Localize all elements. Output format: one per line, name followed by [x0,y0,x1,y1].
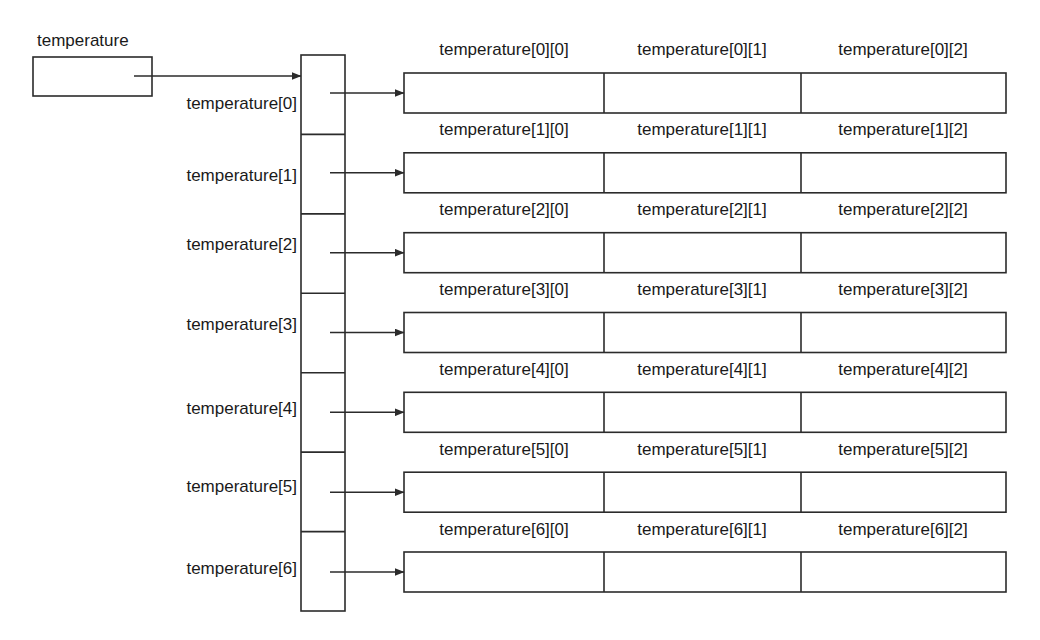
cell-label-4-1: temperature[4][1] [637,360,766,380]
row-box [404,73,1006,113]
row-box [404,392,1006,432]
pointer-label-1: temperature[1] [186,166,297,186]
cell-label-1-2: temperature[1][2] [838,120,967,140]
cell-label-4-2: temperature[4][2] [838,360,967,380]
pointer-label-5: temperature[5] [186,477,297,497]
cell-label-0-2: temperature[0][2] [838,40,967,60]
cell-label-5-0: temperature[5][0] [439,440,568,460]
cell-label-2-1: temperature[2][1] [637,200,766,220]
cell-label-6-2: temperature[6][2] [838,520,967,540]
row-box [404,233,1006,273]
root-pointer-label: temperature [37,31,129,51]
pointer-label-4: temperature[4] [186,399,297,419]
row-box [404,472,1006,512]
cell-label-5-2: temperature[5][2] [838,440,967,460]
cell-label-0-0: temperature[0][0] [439,40,568,60]
cell-label-1-0: temperature[1][0] [439,120,568,140]
cell-label-3-1: temperature[3][1] [637,280,766,300]
array-of-pointers-diagram: temperature temperature[0] temperature[1… [0,0,1040,640]
row-box [404,552,1006,592]
cell-label-6-1: temperature[6][1] [637,520,766,540]
cell-label-2-0: temperature[2][0] [439,200,568,220]
diagram-graphics [0,0,1040,640]
cell-label-0-1: temperature[0][1] [637,40,766,60]
cell-label-4-0: temperature[4][0] [439,360,568,380]
cell-label-6-0: temperature[6][0] [439,520,568,540]
cell-label-5-1: temperature[5][1] [637,440,766,460]
row-box [404,153,1006,193]
cell-label-1-1: temperature[1][1] [637,120,766,140]
pointer-label-3: temperature[3] [186,315,297,335]
pointer-label-6: temperature[6] [186,559,297,579]
cell-label-3-0: temperature[3][0] [439,280,568,300]
cell-label-3-2: temperature[3][2] [838,280,967,300]
cell-label-2-2: temperature[2][2] [838,200,967,220]
row-box [404,313,1006,353]
pointer-label-0: temperature[0] [186,94,297,114]
pointer-label-2: temperature[2] [186,235,297,255]
